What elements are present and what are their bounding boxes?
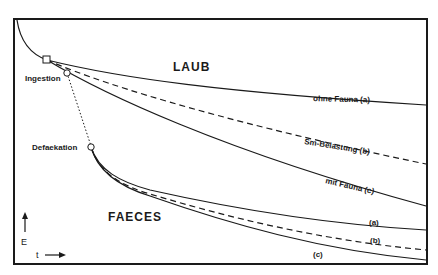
transfer-dotted-line [67,73,91,146]
event-label-defaekation: Defaekation [32,143,77,152]
ingestion-square-marker [43,56,50,63]
faeces-curve-b [91,147,426,250]
laub-curve-label-c: mit Fauna (c) [325,176,376,196]
diagram-canvas: LAUB FAECES Ingestion Defaekation ohne F… [0,0,438,275]
event-label-ingestion: Ingestion [25,74,61,83]
y-axis-label: E [21,237,27,247]
faeces-curve-label-b: (b) [370,236,381,245]
region-label-faeces: FAECES [108,210,162,224]
laub-curve-label-b: Sm-Belastung (b) [304,137,371,156]
initial-decay-curve [17,20,47,60]
defaekation-circle-marker [88,144,94,150]
faeces-curve-label-c: (c) [313,250,323,259]
diagram-frame [14,19,427,264]
x-axis-arrow-icon [45,252,66,258]
faeces-curve-label-a: (a) [369,218,379,227]
ingestion-circle-marker [64,70,70,76]
y-axis-arrow-icon [22,212,28,232]
x-axis-label: t [36,250,39,260]
region-label-laub: LAUB [173,60,210,74]
laub-curve-label-a: ohne Fauna (a) [313,94,370,104]
